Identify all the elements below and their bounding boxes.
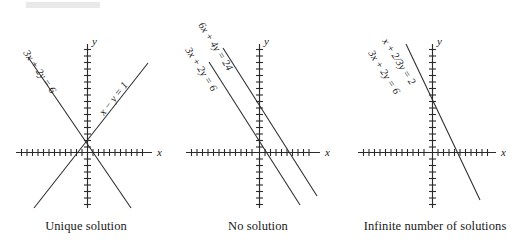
graph-svg-no-solution: x y 6x + 4y = 24 3x + 2y = 6 [172, 0, 344, 216]
panel-unique-solution: x y 3x + 2y = 6 x − y = 1 Unique solutio… [0, 0, 172, 249]
caption-unique-solution: Unique solution [0, 219, 172, 234]
x-axis-label: x [156, 146, 162, 158]
graph-svg-infinite-solutions: x y x + 2/3y = 2 3x + 2y = 6 [344, 0, 526, 216]
equation-label-3x-2y-6: 3x + 2y = 6 [21, 47, 59, 96]
figure-root: x y 3x + 2y = 6 x − y = 1 Unique solutio… [0, 0, 526, 249]
caption-infinite-solutions: Infinite number of solutions [344, 219, 526, 234]
line-6x-4y-24 [223, 48, 317, 196]
caption-no-solution: No solution [172, 219, 344, 234]
line-coincident [406, 44, 480, 200]
x-axis-label: x [324, 146, 330, 158]
y-axis-label: y [263, 35, 269, 47]
panel-infinite-solutions: x y x + 2/3y = 2 3x + 2y = 6 Infinite nu… [344, 0, 526, 249]
plot-no-solution: x y 6x + 4y = 24 3x + 2y = 6 [172, 0, 344, 216]
panel-no-solution: x y 6x + 4y = 24 3x + 2y = 6 No solution [172, 0, 344, 249]
line-3x-2y-6 [209, 62, 300, 205]
plot-infinite-solutions: x y x + 2/3y = 2 3x + 2y = 6 [344, 0, 526, 216]
equation-label-x-minus-y-1: x − y = 1 [96, 80, 130, 118]
y-axis-label: y [91, 35, 97, 47]
x-axis-label: x [500, 146, 506, 158]
graph-svg-unique-solution: x y 3x + 2y = 6 x − y = 1 [0, 0, 172, 216]
plot-unique-solution: x y 3x + 2y = 6 x − y = 1 [0, 0, 172, 216]
y-axis-label: y [436, 35, 442, 47]
